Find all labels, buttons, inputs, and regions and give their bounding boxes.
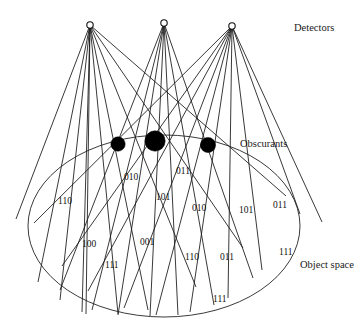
- diagram-canvas: 1100100111010101010111000011111100111111…: [0, 0, 363, 327]
- region-code-label-2: 011: [176, 166, 190, 176]
- object-space-ellipse: [28, 135, 300, 317]
- region-code-label-8: 001: [140, 237, 155, 247]
- detectors-label: Detectors: [294, 22, 334, 33]
- ray-line-19: [88, 26, 232, 291]
- ray-line-22: [190, 26, 232, 312]
- region-code-label-13: 111: [213, 294, 227, 304]
- ray-line-15: [164, 23, 214, 305]
- ray-lines-group: [16, 23, 322, 316]
- ray-line-11: [92, 23, 164, 310]
- obscurant-right[interactable]: [200, 137, 215, 152]
- ray-line-2: [60, 25, 90, 300]
- region-code-label-1: 010: [124, 172, 139, 182]
- region-code-label-9: 111: [105, 260, 119, 270]
- ray-line-26: [232, 26, 322, 222]
- obscurants-label: Obscurants: [240, 138, 287, 149]
- detector-middle[interactable]: [161, 20, 167, 26]
- object-space-label: Object space: [300, 259, 354, 270]
- tomography-diagram: 1100100111010101010111000011111100111111…: [0, 0, 363, 327]
- region-code-label-3: 101: [156, 192, 171, 202]
- obscurant-middle[interactable]: [145, 131, 165, 151]
- detector-right[interactable]: [229, 23, 235, 29]
- ray-line-0: [16, 25, 90, 219]
- object-space-boundary-group: [28, 135, 300, 317]
- ray-line-17: [34, 26, 232, 223]
- region-code-label-0: 110: [58, 196, 72, 206]
- ray-line-25: [232, 26, 300, 214]
- region-code-label-4: 010: [192, 203, 207, 213]
- detectors-group: [87, 20, 235, 29]
- ray-line-21: [156, 26, 232, 315]
- region-code-label-5: 101: [239, 205, 254, 215]
- region-code-label-10: 110: [185, 252, 199, 262]
- detector-left[interactable]: [87, 22, 93, 28]
- region-code-label-11: 011: [220, 252, 234, 262]
- region-code-label-12: 111: [279, 247, 293, 257]
- obscurant-left[interactable]: [111, 137, 125, 151]
- region-code-label-7: 100: [82, 239, 97, 249]
- ray-line-5: [90, 25, 118, 314]
- region-code-label-6: 011: [273, 200, 287, 210]
